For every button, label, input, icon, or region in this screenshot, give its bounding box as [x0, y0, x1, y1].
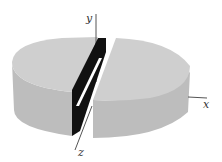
- right-cylinder-half: [93, 38, 190, 138]
- x-axis-label: x: [203, 98, 210, 111]
- z-axis-label: z: [77, 146, 84, 159]
- y-axis-label: y: [85, 12, 93, 25]
- split-cylinder-diagram: y z x: [0, 0, 222, 162]
